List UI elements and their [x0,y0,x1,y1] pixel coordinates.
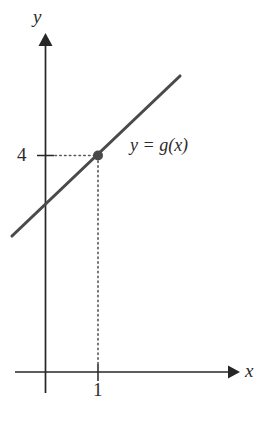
y-tick-label-4: 4 [17,144,27,166]
graph-canvas [0,0,267,425]
axes-group [15,33,240,393]
y-axis-arrow-icon [39,33,53,46]
x-axis-arrow-icon [228,366,240,379]
x-tick-label-1: 1 [93,379,103,401]
graph-figure: y x 4 1 y = g(x) [0,0,267,425]
point-marker-1-4 [93,151,103,161]
y-axis-label: y [33,6,41,28]
function-equation-label: y = g(x) [130,135,188,156]
x-axis-label: x [245,360,253,382]
marked-point-group [93,151,103,161]
